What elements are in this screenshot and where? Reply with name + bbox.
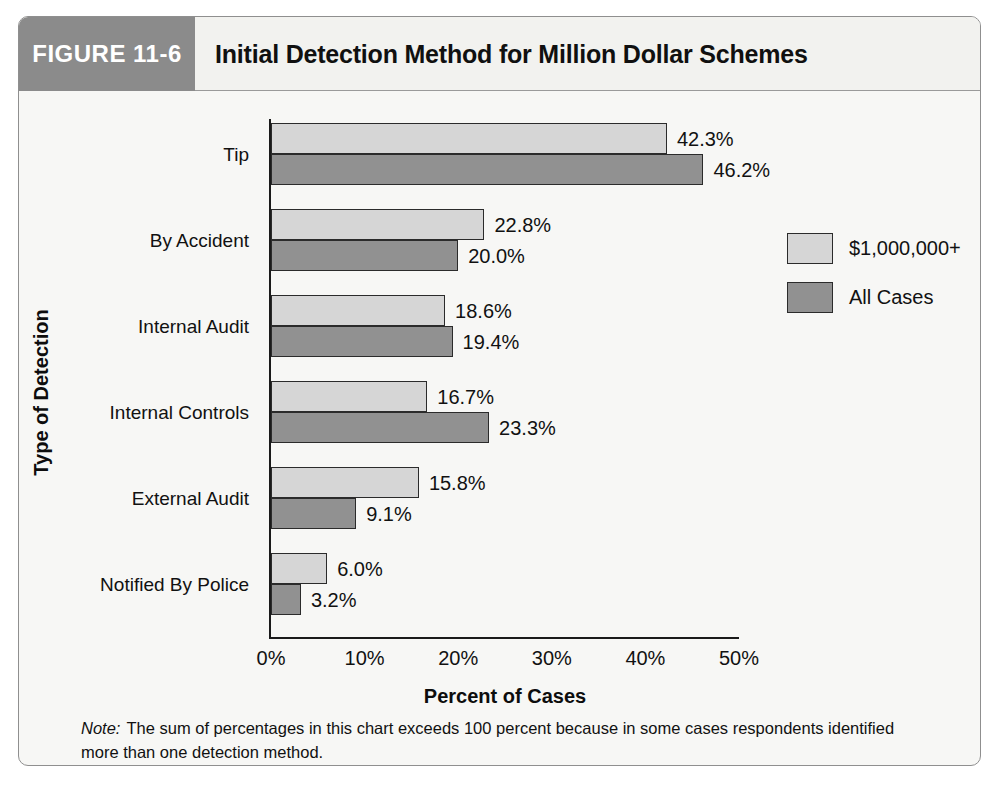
bar-group: Internal Audit18.6%19.4% bbox=[271, 295, 739, 357]
bar-row: 42.3% bbox=[271, 123, 739, 154]
legend-item: $1,000,000+ bbox=[787, 233, 961, 264]
legend-label: $1,000,000+ bbox=[849, 237, 961, 260]
bar-value-label: 6.0% bbox=[337, 557, 383, 580]
x-tick-label: 20% bbox=[438, 647, 478, 670]
x-tick-label: 30% bbox=[532, 647, 572, 670]
figure-number-label: FIGURE 11-6 bbox=[32, 40, 182, 68]
category-label: Notified By Police bbox=[100, 574, 249, 596]
bar-chart-plot: Tip42.3%46.2%By Accident22.8%20.0%Intern… bbox=[271, 119, 739, 637]
legend-item: All Cases bbox=[787, 282, 961, 313]
bar-value-label: 18.6% bbox=[455, 299, 512, 322]
chart-plot-area: Type of Detection Tip42.3%46.2%By Accide… bbox=[19, 91, 981, 766]
bar-row: 22.8% bbox=[271, 209, 739, 240]
bar-row: 3.2% bbox=[271, 584, 739, 615]
x-axis-line bbox=[269, 637, 739, 639]
bar bbox=[271, 154, 703, 185]
bar-group: Tip42.3%46.2% bbox=[271, 123, 739, 185]
category-label: Tip bbox=[223, 144, 249, 166]
x-tick-label: 40% bbox=[625, 647, 665, 670]
bar-row: 18.6% bbox=[271, 295, 739, 326]
footnote-text: The sum of percentages in this chart exc… bbox=[81, 719, 894, 761]
legend-swatch bbox=[787, 282, 833, 313]
bar bbox=[271, 295, 445, 326]
bar-row: 23.3% bbox=[271, 412, 739, 443]
footnote-label: Note: bbox=[81, 719, 120, 737]
bar-row: 46.2% bbox=[271, 154, 739, 185]
x-tick-label: 10% bbox=[345, 647, 385, 670]
bar bbox=[271, 467, 419, 498]
bar-row: 19.4% bbox=[271, 326, 739, 357]
bar bbox=[271, 240, 458, 271]
bar-value-label: 42.3% bbox=[677, 127, 734, 150]
bar-value-label: 23.3% bbox=[499, 416, 556, 439]
bar bbox=[271, 412, 489, 443]
bar bbox=[271, 326, 453, 357]
bar-group: Notified By Police6.0%3.2% bbox=[271, 553, 739, 615]
chart-legend: $1,000,000+All Cases bbox=[787, 233, 961, 331]
bar-group: By Accident22.8%20.0% bbox=[271, 209, 739, 271]
bar-row: 6.0% bbox=[271, 553, 739, 584]
bar-row: 15.8% bbox=[271, 467, 739, 498]
bar-value-label: 46.2% bbox=[713, 158, 770, 181]
category-label: By Accident bbox=[150, 230, 249, 252]
category-label: Internal Audit bbox=[138, 316, 249, 338]
x-axis-title: Percent of Cases bbox=[271, 685, 739, 708]
bar-value-label: 15.8% bbox=[429, 471, 486, 494]
bar-row: 9.1% bbox=[271, 498, 739, 529]
bar bbox=[271, 123, 667, 154]
x-tick-label: 50% bbox=[719, 647, 759, 670]
bar-value-label: 16.7% bbox=[437, 385, 494, 408]
bar-value-label: 22.8% bbox=[494, 213, 551, 236]
bar bbox=[271, 209, 484, 240]
x-tick-label: 0% bbox=[257, 647, 286, 670]
legend-swatch bbox=[787, 233, 833, 264]
y-axis-title: Type of Detection bbox=[30, 293, 53, 493]
bar-row: 16.7% bbox=[271, 381, 739, 412]
figure-number-block: FIGURE 11-6 bbox=[19, 17, 195, 91]
bar-row: 20.0% bbox=[271, 240, 739, 271]
figure-frame: FIGURE 11-6 Initial Detection Method for… bbox=[18, 16, 981, 766]
bar-group: Internal Controls16.7%23.3% bbox=[271, 381, 739, 443]
bar-value-label: 20.0% bbox=[468, 244, 525, 267]
bar-value-label: 9.1% bbox=[366, 502, 412, 525]
bar bbox=[271, 381, 427, 412]
figure-footnote: Note:The sum of percentages in this char… bbox=[81, 717, 921, 765]
category-label: External Audit bbox=[132, 488, 249, 510]
legend-label: All Cases bbox=[849, 286, 933, 309]
bar bbox=[271, 498, 356, 529]
bar bbox=[271, 584, 301, 615]
bar-value-label: 3.2% bbox=[311, 588, 357, 611]
figure-header-band: FIGURE 11-6 Initial Detection Method for… bbox=[19, 17, 980, 91]
bar-value-label: 19.4% bbox=[463, 330, 520, 353]
figure-title: Initial Detection Method for Million Dol… bbox=[215, 17, 808, 91]
bar bbox=[271, 553, 327, 584]
category-label: Internal Controls bbox=[110, 402, 249, 424]
bar-group: External Audit15.8%9.1% bbox=[271, 467, 739, 529]
